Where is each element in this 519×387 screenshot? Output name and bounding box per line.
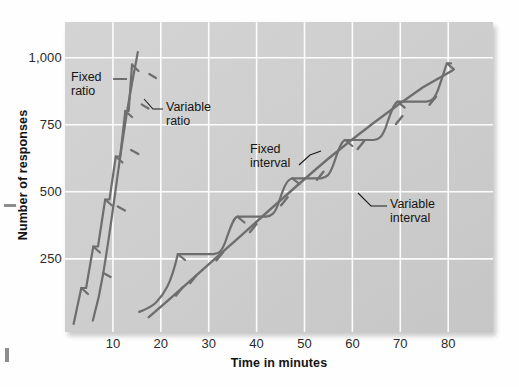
plot-background [65, 22, 493, 332]
label-variable-interval: Variable interval [390, 198, 435, 225]
y-axis-tick-labels: 1,000 750 500 250 [0, 0, 62, 387]
figure-chart-schedules-of-reinforcement: 1,000 750 500 250 Number of responses [0, 0, 519, 387]
page-edge-mark-left [4, 204, 16, 207]
plot-svg [65, 22, 493, 332]
y-tick-1000: 1,000 [0, 50, 62, 65]
x-tick-40: 40 [237, 336, 277, 351]
x-tick-30: 30 [189, 336, 229, 351]
x-tick-50: 50 [285, 336, 325, 351]
y-axis-title: Number of responses [16, 90, 30, 260]
page-edge-mark-bottom-left [5, 348, 9, 362]
label-fixed-interval: Fixed interval [250, 143, 290, 170]
x-axis-title: Time in minutes [65, 356, 493, 370]
y-tick-750: 750 [0, 117, 62, 132]
y-tick-500: 500 [0, 184, 62, 199]
x-tick-20: 20 [141, 336, 181, 351]
plot-area: Fixed ratio Variable ratio Fixed interva… [65, 22, 493, 332]
label-fixed-ratio: Fixed ratio [71, 71, 102, 98]
label-variable-ratio: Variable ratio [166, 101, 211, 128]
x-tick-70: 70 [380, 336, 420, 351]
y-tick-250: 250 [0, 251, 62, 266]
x-tick-10: 10 [93, 336, 133, 351]
x-axis-tick-labels: 10 20 30 40 50 60 70 80 [65, 336, 493, 356]
x-tick-80: 80 [428, 336, 468, 351]
x-tick-60: 60 [332, 336, 372, 351]
